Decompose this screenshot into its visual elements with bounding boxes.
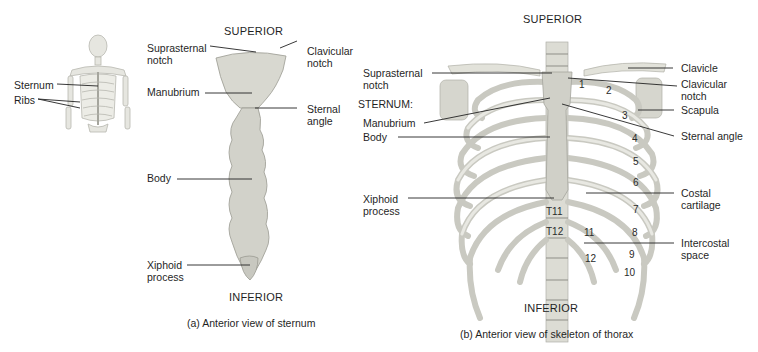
label-b-intercostal-space: Intercostal space: [681, 237, 729, 261]
rib-number-3: 3: [622, 110, 628, 121]
label-b-scapula: Scapula: [681, 104, 719, 116]
panel-b-superior: SUPERIOR: [523, 13, 582, 25]
label-ribs-thumb: Ribs: [14, 94, 35, 106]
label-b-clavicle: Clavicle: [681, 62, 718, 74]
rib-number-10: 10: [624, 267, 635, 278]
label-b-costal-cartilage: Costal cartilage: [681, 187, 721, 211]
vertebra-label-t12: T12: [546, 226, 563, 237]
rib-number-7: 7: [633, 204, 639, 215]
panel-b-caption: (b) Anterior view of skeleton of thorax: [460, 328, 633, 340]
thorax-illustration: [440, 42, 666, 342]
rib-number-9: 9: [629, 249, 635, 260]
label-a-xiphoid-process: Xiphoid process: [147, 259, 184, 283]
rib-number-5: 5: [633, 156, 639, 167]
label-a-clavicular-notch: Clavicular notch: [307, 45, 353, 69]
panel-b-inferior: INFERIOR: [524, 302, 578, 314]
rib-number-6: 6: [633, 177, 639, 188]
label-b-body: Body: [363, 131, 387, 143]
label-b-suprasternal-notch: Suprasternal notch: [363, 67, 423, 91]
rib-number-12: 12: [585, 253, 596, 264]
anatomy-illustration: [0, 0, 758, 352]
rib-number-8: 8: [632, 227, 638, 238]
panel-a-caption: (a) Anterior view of sternum: [187, 317, 315, 329]
label-b-xiphoid-process: Xiphoid process: [363, 193, 400, 217]
rib-number-1: 1: [579, 79, 585, 90]
panel-a-superior: SUPERIOR: [224, 25, 283, 37]
label-a-body: Body: [147, 172, 171, 184]
label-a-sternal-angle: Sternal angle: [307, 103, 340, 127]
label-b-sternal-angle: Sternal angle: [681, 130, 743, 142]
label-a-suprasternal-notch: Suprasternal notch: [147, 42, 207, 66]
rib-number-4: 4: [632, 133, 638, 144]
label-b-sternum-heading: STERNUM:: [358, 98, 413, 110]
label-a-manubrium: Manubrium: [147, 86, 200, 98]
sternum-illustration: [216, 52, 286, 280]
vertebra-label-t11: T11: [546, 206, 563, 217]
label-b-manubrium: Manubrium: [363, 117, 416, 129]
rib-number-11: 11: [584, 227, 594, 238]
panel-a-inferior: INFERIOR: [229, 291, 283, 303]
thumbnail-skeleton-icon: [66, 35, 130, 132]
label-sternum-thumb: Sternum: [14, 79, 54, 91]
label-b-clavicular-notch: Clavicular notch: [681, 78, 727, 102]
rib-number-2: 2: [606, 85, 612, 96]
